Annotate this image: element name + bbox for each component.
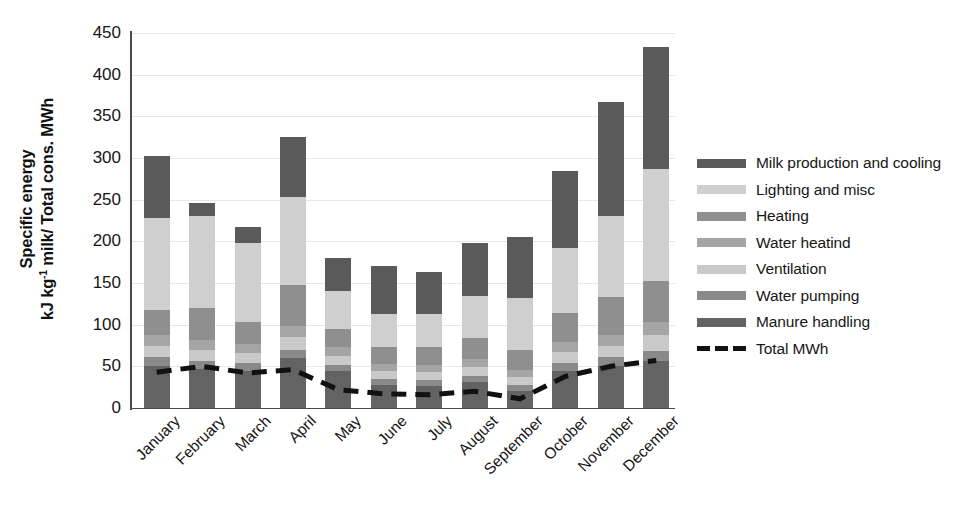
bar-segment — [325, 356, 351, 365]
bar-segment — [235, 344, 261, 353]
bar-segment — [643, 169, 669, 282]
legend-item-water-pumping[interactable]: Water pumping — [697, 283, 967, 310]
x-axis-label-june: June — [374, 412, 411, 449]
bar-segment — [371, 371, 397, 379]
bar-segment — [144, 366, 170, 408]
bar-segment — [416, 314, 442, 347]
legend-item-total-mwh[interactable]: Total MWh — [697, 336, 967, 363]
x-axis-label-march: March — [231, 412, 274, 455]
bar-segment — [280, 137, 306, 197]
y-tick-label: 200 — [93, 231, 121, 251]
bar-segment — [235, 371, 261, 409]
y-tick-label: 50 — [102, 356, 121, 376]
bar-segment — [462, 359, 488, 367]
bar-segment — [552, 342, 578, 352]
legend-item-milk-production-and-cooling[interactable]: Milk production and cooling — [697, 150, 967, 177]
legend-label: Lighting and misc — [756, 181, 875, 199]
x-axis-label-text: May — [332, 412, 365, 445]
bar-series-container — [130, 33, 675, 408]
bar-segment — [371, 266, 397, 314]
bar-segment — [235, 363, 261, 371]
x-axis-label-text: June — [374, 412, 411, 449]
legend-color-swatch — [697, 238, 746, 247]
bar-segment — [462, 376, 488, 383]
bar-segment — [552, 363, 578, 371]
plot-area: 050100150200250300350400450 — [130, 33, 675, 408]
bar-segment — [235, 322, 261, 344]
y-tick-label: 350 — [93, 106, 121, 126]
bar-segment — [462, 382, 488, 408]
legend-color-swatch — [697, 212, 746, 221]
x-axis-label-february: February — [172, 412, 229, 469]
bar-segment — [416, 372, 442, 380]
legend-color-swatch — [697, 185, 746, 194]
bar-segment — [552, 371, 578, 408]
legend-color-swatch — [697, 159, 746, 168]
bar-segment — [416, 365, 442, 373]
legend-label: Milk production and cooling — [756, 154, 941, 172]
bar-segment — [325, 329, 351, 347]
bar-segment — [462, 296, 488, 338]
x-axis-label-text: March — [231, 412, 274, 455]
bar-segment — [235, 243, 261, 322]
y-tick-label: 250 — [93, 190, 121, 210]
bar-segment — [552, 313, 578, 342]
bar-segment — [325, 365, 351, 372]
bar-segment — [144, 156, 170, 219]
bar-segment — [416, 347, 442, 365]
legend-label: Total MWh — [756, 340, 828, 358]
bar-segment — [552, 352, 578, 363]
bar-segment — [462, 338, 488, 359]
bar-segment — [144, 218, 170, 310]
x-axis-labels: JanuaryFebruaryMarchAprilMayJuneJulyAugu… — [130, 412, 690, 522]
bar-segment — [598, 357, 624, 366]
y-tick-label: 400 — [93, 65, 121, 85]
legend-label: Manure handling — [756, 313, 870, 331]
bar-segment — [189, 308, 215, 340]
y-axis-title-line1: Specific energy — [16, 29, 37, 389]
y-axis-title-line2-post: milk/ Total cons. MWh — [38, 98, 56, 270]
bar-segment — [371, 364, 397, 372]
bar-segment — [416, 386, 442, 409]
bar-segment — [325, 258, 351, 291]
bar-segment — [144, 335, 170, 346]
bar-segment — [598, 366, 624, 408]
bar-segment — [507, 385, 533, 392]
legend-item-manure-handling[interactable]: Manure handling — [697, 309, 967, 336]
y-tick-label: 100 — [93, 315, 121, 335]
y-tick-label: 300 — [93, 148, 121, 168]
bar-segment — [144, 357, 170, 366]
bar-segment — [598, 297, 624, 335]
x-axis-label-july: July — [424, 412, 456, 444]
legend-label: Water heatind — [756, 234, 851, 252]
y-axis-title: Specific energy kJ kg-1 milk/ Total cons… — [16, 29, 58, 389]
chart-root: Specific energy kJ kg-1 milk/ Total cons… — [0, 0, 973, 529]
bar-segment — [371, 314, 397, 347]
bar-segment — [280, 197, 306, 285]
y-tick-label: 450 — [93, 23, 121, 43]
bar-segment — [189, 203, 215, 216]
bar-segment — [462, 243, 488, 296]
bar-segment — [189, 369, 215, 408]
legend-color-swatch — [697, 291, 746, 300]
bar-segment — [280, 326, 306, 337]
legend-item-water-heatind[interactable]: Water heatind — [697, 230, 967, 257]
bar-segment — [643, 47, 669, 169]
bar-segment — [189, 361, 215, 369]
bar-segment — [462, 367, 488, 375]
bar-segment — [507, 237, 533, 298]
bar-segment — [552, 248, 578, 313]
legend-item-lighting-and-misc[interactable]: Lighting and misc — [697, 177, 967, 204]
bar-segment — [235, 227, 261, 243]
bar-segment — [280, 358, 306, 408]
bar-segment — [507, 370, 533, 378]
x-axis-label-april: April — [285, 412, 320, 447]
legend-item-heating[interactable]: Heating — [697, 203, 967, 230]
bar-segment — [189, 216, 215, 308]
bar-segment — [189, 340, 215, 350]
legend-item-ventilation[interactable]: Ventilation — [697, 256, 967, 283]
bar-segment — [325, 347, 351, 355]
bar-segment — [280, 285, 306, 327]
y-axis-title-exponent: -1 — [37, 270, 49, 279]
legend: Milk production and coolingLighting and … — [697, 150, 967, 362]
